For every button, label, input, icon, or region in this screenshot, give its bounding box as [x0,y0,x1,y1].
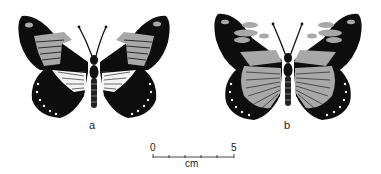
scale-unit-label: cm [185,159,198,169]
scale-end-label: 5 [231,143,237,153]
scale-start-label: 0 [150,143,156,153]
panel-label-a: a [89,120,95,131]
butterfly-figure [0,0,381,174]
butterfly-a-illustration [18,16,169,118]
panel-label-b: b [284,120,290,131]
butterfly-b-illustration [214,14,361,120]
